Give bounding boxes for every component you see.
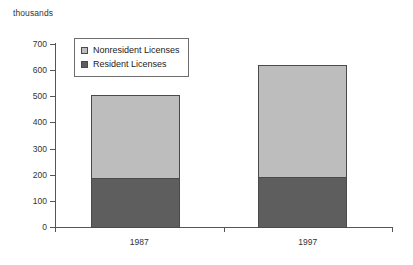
legend-item-resident: Resident Licenses [81, 57, 180, 71]
bar-segment-nonresident [91, 95, 180, 179]
y-tick-label: 700 [33, 39, 47, 49]
plot-area: 0100200300400500600700 19871997 [0, 0, 413, 265]
x-tick-label: 1987 [55, 237, 224, 247]
x-tick-mark [224, 227, 225, 232]
y-tick-mark [50, 44, 55, 45]
legend-swatch-resident-icon [81, 61, 88, 68]
stacked-bar-chart: thousands 0100200300400500600700 1987199… [0, 0, 413, 265]
y-tick-label: 300 [33, 144, 47, 154]
y-tick-mark [50, 70, 55, 71]
y-tick-mark [50, 175, 55, 176]
legend-label-nonresident: Nonresident Licenses [93, 46, 180, 55]
y-tick-label: 600 [33, 65, 47, 75]
x-tick-mark [392, 227, 393, 232]
legend-label-resident: Resident Licenses [93, 60, 167, 69]
y-axis-line [55, 43, 56, 228]
y-tick-label: 400 [33, 117, 47, 127]
x-tick-label: 1997 [224, 237, 393, 247]
y-tick-label: 0 [42, 222, 47, 232]
y-tick-mark [50, 122, 55, 123]
y-tick-mark [50, 201, 55, 202]
x-tick-mark [55, 227, 56, 232]
y-tick-mark [50, 96, 55, 97]
y-tick-mark [50, 149, 55, 150]
bar-segment-resident [258, 177, 347, 228]
bar-segment-nonresident [258, 65, 347, 178]
y-tick-label: 100 [33, 196, 47, 206]
y-tick-label: 200 [33, 170, 47, 180]
y-tick-label: 500 [33, 91, 47, 101]
legend-swatch-nonresident-icon [81, 47, 88, 54]
legend-item-nonresident: Nonresident Licenses [81, 43, 180, 57]
bar-segment-resident [91, 178, 180, 228]
chart-legend: Nonresident Licenses Resident Licenses [74, 38, 189, 77]
